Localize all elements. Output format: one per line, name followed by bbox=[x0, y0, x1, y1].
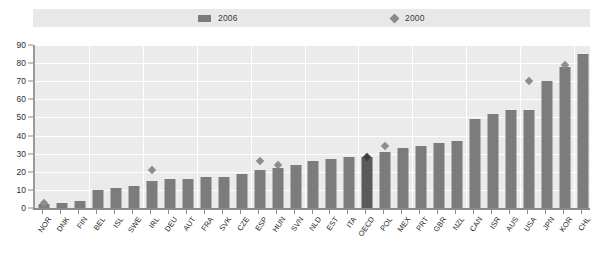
x-axis-label-swe: SWE bbox=[126, 215, 143, 234]
bar-jpn[interactable] bbox=[542, 81, 553, 208]
x-axis-label-kor: KOR bbox=[558, 215, 575, 234]
bar-slot bbox=[53, 45, 71, 208]
x-axis-label-deu: DEU bbox=[162, 215, 179, 233]
bar-slot bbox=[412, 45, 430, 208]
y-axis-tick-label: 90 bbox=[4, 40, 26, 50]
bar-svk[interactable] bbox=[218, 177, 229, 208]
legend-entry-2000[interactable]: 2000 bbox=[391, 13, 425, 23]
bar-slot bbox=[269, 45, 287, 208]
x-axis-tick-mark bbox=[258, 210, 259, 214]
x-axis-tick-mark bbox=[491, 210, 492, 214]
bar-slot bbox=[125, 45, 143, 208]
marker-2000-usa[interactable] bbox=[525, 77, 533, 85]
x-axis-tick-mark bbox=[347, 210, 348, 214]
y-axis-tick-label: 20 bbox=[4, 167, 26, 177]
bar-slot bbox=[107, 45, 125, 208]
bar-slot bbox=[89, 45, 107, 208]
bar-slot bbox=[35, 45, 53, 208]
x-axis-label-jpn: JPN bbox=[541, 215, 557, 232]
x-axis-label-est: EST bbox=[325, 215, 341, 232]
bar-gbr[interactable] bbox=[434, 143, 445, 208]
x-axis-label-gbr: GBR bbox=[432, 215, 449, 234]
bar-svn[interactable] bbox=[290, 165, 301, 208]
bar-kor[interactable] bbox=[560, 67, 571, 208]
diamond-marker-icon bbox=[390, 13, 400, 23]
bar-usa[interactable] bbox=[524, 110, 535, 208]
bar-nld[interactable] bbox=[308, 161, 319, 208]
y-axis-tick-label: 50 bbox=[4, 112, 26, 122]
bar-isl[interactable] bbox=[110, 188, 121, 208]
x-axis-label-fra: FRA bbox=[199, 215, 215, 233]
legend-label-2006: 2006 bbox=[218, 13, 238, 23]
bar-cze[interactable] bbox=[236, 174, 247, 208]
bar-slot bbox=[358, 45, 376, 208]
bar-pol[interactable] bbox=[380, 152, 391, 208]
x-axis-tick-mark bbox=[276, 210, 277, 214]
bar-isr[interactable] bbox=[488, 114, 499, 208]
x-axis-tick-mark bbox=[150, 210, 151, 214]
bar-slot bbox=[556, 45, 574, 208]
y-axis-tick-label: 30 bbox=[4, 149, 26, 159]
bar-swe[interactable] bbox=[128, 186, 139, 208]
x-axis-tick-mark bbox=[168, 210, 169, 214]
bar-slot bbox=[484, 45, 502, 208]
bar-aut[interactable] bbox=[182, 179, 193, 208]
bar-esp[interactable] bbox=[254, 170, 265, 208]
bar-slot bbox=[305, 45, 323, 208]
bar-hun[interactable] bbox=[272, 168, 283, 208]
bar-irl[interactable] bbox=[146, 181, 157, 208]
legend-entry-2006[interactable]: 2006 bbox=[198, 13, 238, 23]
bar-slot bbox=[340, 45, 358, 208]
bar-slot bbox=[179, 45, 197, 208]
x-axis-label-chl: CHL bbox=[576, 215, 592, 233]
bar-prt[interactable] bbox=[416, 146, 427, 208]
bar-slot bbox=[376, 45, 394, 208]
bar-mex[interactable] bbox=[398, 148, 409, 208]
bar-swatch-icon bbox=[198, 15, 211, 22]
marker-2000-irl[interactable] bbox=[148, 166, 156, 174]
x-axis-label-can: CAN bbox=[468, 215, 485, 233]
x-axis-tick-mark bbox=[563, 210, 564, 214]
x-axis-tick-mark bbox=[240, 210, 241, 214]
marker-2000-pol[interactable] bbox=[381, 142, 389, 150]
x-axis-label-esp: ESP bbox=[253, 215, 269, 233]
bar-slot bbox=[448, 45, 466, 208]
x-axis-tick-mark bbox=[132, 210, 133, 214]
x-axis-tick-mark bbox=[329, 210, 330, 214]
bar-fin[interactable] bbox=[74, 201, 85, 208]
bar-chl[interactable] bbox=[578, 54, 589, 208]
x-axis-tick-mark bbox=[222, 210, 223, 214]
x-axis-tick-mark bbox=[186, 210, 187, 214]
bar-fra[interactable] bbox=[200, 177, 211, 208]
y-axis: 0102030405060708090 bbox=[0, 45, 33, 208]
x-axis-tick-mark bbox=[437, 210, 438, 214]
y-axis-tick-label: 80 bbox=[4, 58, 26, 68]
bar-slot bbox=[233, 45, 251, 208]
bar-group bbox=[35, 45, 590, 208]
bar-deu[interactable] bbox=[164, 179, 175, 208]
x-axis-label-fin: FIN bbox=[75, 215, 89, 230]
x-axis-label-isl: ISL bbox=[111, 215, 125, 230]
bar-bel[interactable] bbox=[92, 190, 103, 208]
bar-can[interactable] bbox=[470, 119, 481, 208]
bar-slot bbox=[197, 45, 215, 208]
bar-est[interactable] bbox=[326, 159, 337, 208]
bar-slot bbox=[520, 45, 538, 208]
x-axis-tick-mark bbox=[383, 210, 384, 214]
marker-2000-esp[interactable] bbox=[255, 157, 263, 165]
y-axis-tick-label: 70 bbox=[4, 76, 26, 86]
y-axis-tick-label: 0 bbox=[4, 203, 26, 213]
x-axis-label-bel: BEL bbox=[92, 215, 108, 232]
x-axis-label-irl: IRL bbox=[147, 215, 161, 230]
bar-aus[interactable] bbox=[506, 110, 517, 208]
bar-slot bbox=[322, 45, 340, 208]
x-axis-tick-mark bbox=[473, 210, 474, 214]
bar-ita[interactable] bbox=[344, 157, 355, 208]
x-axis-tick-mark bbox=[312, 210, 313, 214]
bar-oecd[interactable] bbox=[362, 157, 373, 208]
x-axis-label-pol: POL bbox=[379, 215, 395, 233]
bar-slot bbox=[143, 45, 161, 208]
x-axis-labels: NORDNKFINBELISLSWEIRLDEUAUTFRASVKCZEESPH… bbox=[33, 210, 590, 259]
x-axis-label-prt: PRT bbox=[415, 215, 431, 233]
bar-nzl[interactable] bbox=[452, 141, 463, 208]
